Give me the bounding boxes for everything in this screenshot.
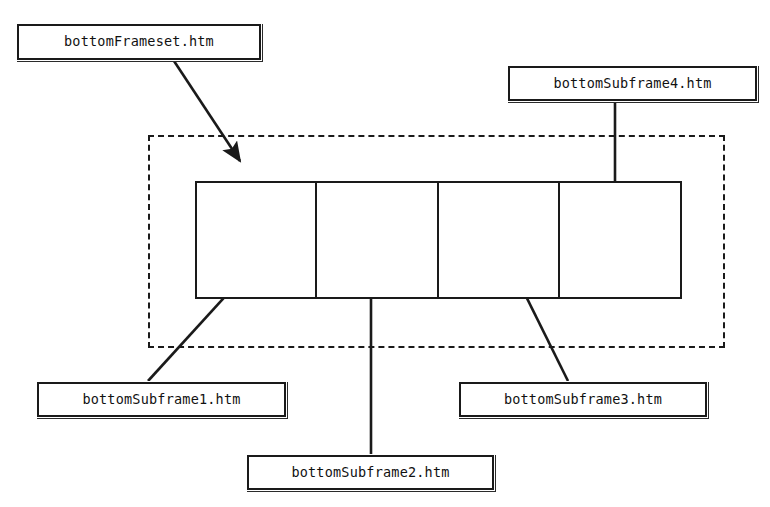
frame-cell-4[interactable] (558, 181, 682, 299)
label-box-subframe1[interactable]: bottomSubframe1.htm (37, 382, 286, 417)
label-box-frameset[interactable]: bottomFrameset.htm (17, 24, 261, 60)
label-box-subframe2[interactable]: bottomSubframe2.htm (247, 455, 494, 490)
label-text-subframe2: bottomSubframe2.htm (291, 466, 449, 480)
label-text-subframe4: bottomSubframe4.htm (553, 77, 711, 91)
frameset-diagram: bottomFrameset.htm bottomSubframe4.htm b… (0, 0, 770, 507)
frame-cell-1[interactable] (195, 181, 315, 299)
label-text-subframe3: bottomSubframe3.htm (504, 393, 662, 407)
label-text-frameset: bottomFrameset.htm (64, 35, 214, 49)
label-text-subframe1: bottomSubframe1.htm (82, 393, 240, 407)
frame-row (195, 181, 682, 299)
label-box-subframe4[interactable]: bottomSubframe4.htm (508, 66, 757, 101)
label-box-subframe3[interactable]: bottomSubframe3.htm (459, 382, 707, 417)
frame-cell-3[interactable] (437, 181, 558, 299)
frame-cell-2[interactable] (315, 181, 437, 299)
